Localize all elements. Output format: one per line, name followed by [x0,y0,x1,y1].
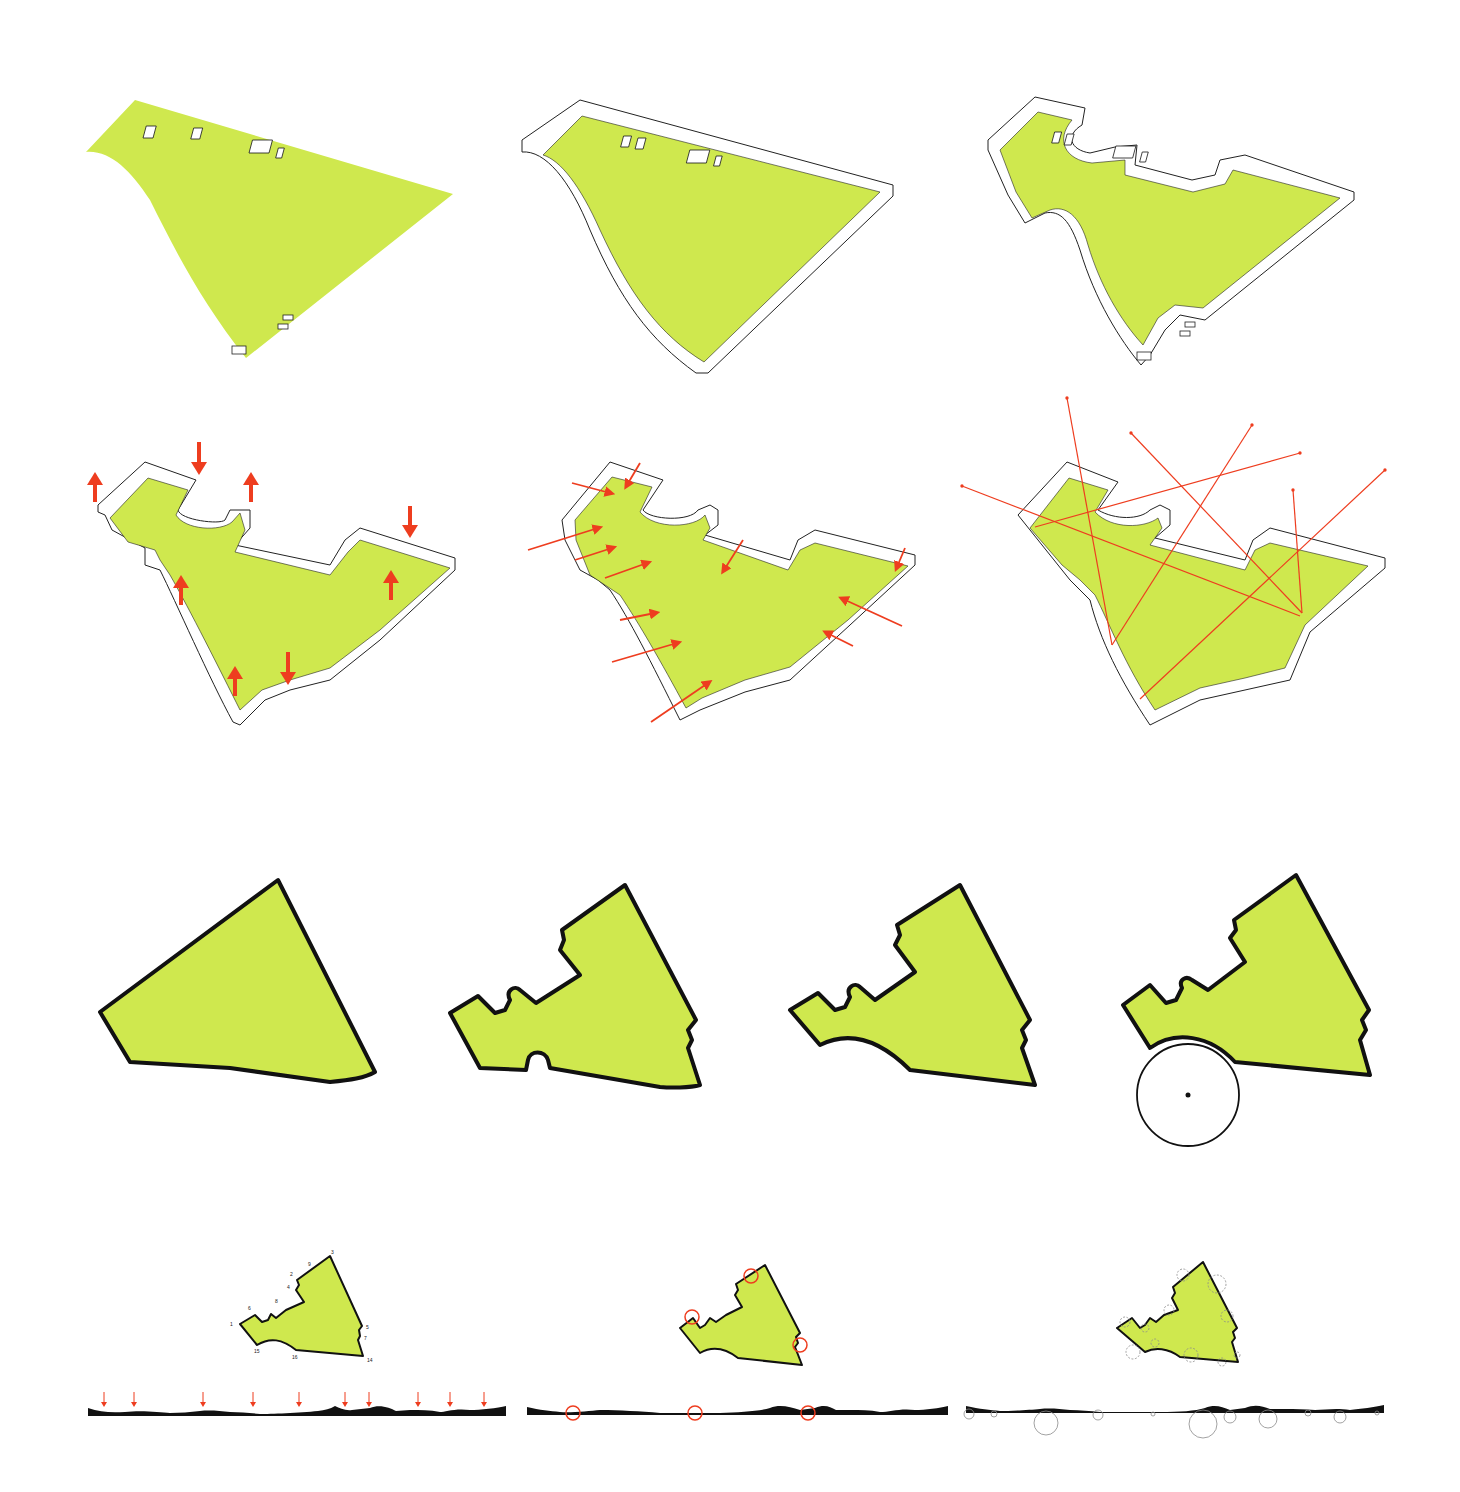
panel-plan-circle [1123,875,1370,1146]
panel-dashed-circle-plan [1117,1262,1240,1366]
panel-site-original [86,100,453,358]
panel-plan-arc-cut [790,885,1035,1085]
svg-text:4: 4 [287,1284,290,1290]
unfolded-edge [88,1406,506,1416]
circle-center-dot [1186,1093,1191,1098]
down-arrows [101,1392,487,1407]
panel-site-enclosed [522,100,893,373]
plan-outline [790,885,1035,1085]
arrow-down-icon [131,1392,137,1407]
plan-outline [1117,1262,1238,1362]
svg-text:2: 2 [290,1271,293,1277]
arrow-down-icon [415,1392,421,1407]
arrow-down-icon [447,1392,453,1407]
site-surface [86,100,453,358]
arrow-down-icon [366,1392,372,1407]
panel-red-circled-plan [680,1265,807,1365]
arrow-down-icon [101,1392,107,1407]
arrow-down-icon [481,1392,487,1407]
arrow-down-icon [296,1392,302,1407]
site-surface [110,478,450,710]
strip-red-circles [527,1406,948,1420]
svg-text:1: 1 [230,1321,233,1327]
strip-arrows [88,1392,506,1416]
panel-plan-notched [450,885,700,1088]
panel-edge-perforations [528,462,915,722]
diagram-sheet: 3 9 2 4 8 6 1 5 7 14 16 15 [0,0,1460,1492]
arrow-down-icon [342,1392,348,1407]
arrow-down-icon [402,506,418,538]
arrow-up-icon [243,472,259,502]
svg-text:7: 7 [364,1335,367,1341]
strip-grey-circles [964,1405,1384,1438]
panel-numbered-plan: 3 9 2 4 8 6 1 5 7 14 16 15 [230,1249,373,1363]
svg-text:5: 5 [366,1324,369,1330]
site-surface [1030,478,1368,710]
panel-sightlines [962,398,1385,725]
svg-text:6: 6 [248,1305,251,1311]
svg-text:3: 3 [331,1249,334,1255]
panel-site-recessed [988,97,1354,365]
arrow-down-icon [200,1392,206,1407]
unfolded-edge [527,1406,948,1415]
svg-text:9: 9 [308,1261,311,1267]
svg-text:14: 14 [367,1357,373,1363]
arrow-down-icon [250,1392,256,1407]
unfolded-edge [966,1405,1384,1413]
svg-text:8: 8 [275,1298,278,1304]
plan-outline [100,880,375,1082]
panel-wall-push-pull [87,442,455,725]
grey-circles [964,1409,1379,1438]
panel-plan-original [100,880,375,1082]
arrow-down-icon [191,442,207,475]
plan-outline [1123,875,1370,1075]
svg-text:15: 15 [254,1348,260,1354]
svg-text:16: 16 [292,1354,298,1360]
plan-outline [450,885,700,1088]
plan-outline [240,1256,363,1356]
arrow-up-icon [87,472,103,502]
site-surface [575,477,908,708]
